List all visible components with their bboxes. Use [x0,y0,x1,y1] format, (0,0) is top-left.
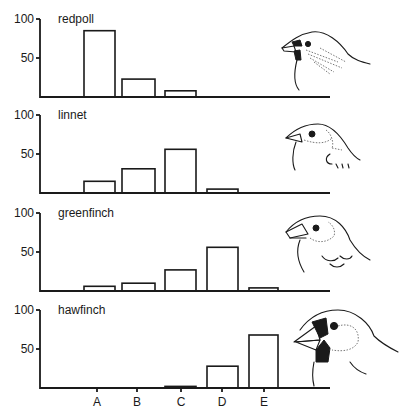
greenfinch-head-icon [286,216,370,272]
panel-title: linnet [58,108,87,122]
bar-hawfinch-E [249,335,278,388]
panel-hawfinch: 10050hawfinch [14,303,330,388]
ytick-label: 50 [21,147,35,161]
redpoll-head-icon [282,32,370,90]
hawfinch-head-icon [294,310,398,386]
ytick-label: 100 [14,206,34,220]
xtick-label-B: B [133,395,141,409]
linnet-head-icon [286,124,360,170]
panel-redpoll: 10050redpoll [14,12,330,97]
ytick-label: 100 [14,12,34,26]
bar-greenfinch-D [207,247,238,291]
ytick-label: 100 [14,108,34,122]
bar-linnet-C [165,149,196,193]
bar-greenfinch-B [122,283,155,291]
panel-title: hawfinch [58,303,105,317]
axis-hawfinch [40,310,330,388]
panel-title: redpoll [58,12,94,26]
bar-redpoll-C [165,91,196,97]
ytick-label: 50 [21,245,35,259]
bar-hawfinch-D [207,366,238,388]
bar-redpoll-A [84,31,115,97]
panel-linnet: 10050linnet [14,108,330,193]
bar-linnet-A [84,181,115,193]
ytick-label: 100 [14,303,34,317]
panel-greenfinch: 10050greenfinch [14,206,330,291]
bar-redpoll-B [122,79,155,97]
ytick-label: 50 [21,51,35,65]
xtick-label-D: D [218,395,227,409]
bar-greenfinch-C [165,270,196,291]
panel-title: greenfinch [58,206,114,220]
bar-linnet-B [122,169,155,193]
xtick-label-C: C [177,395,186,409]
ytick-label: 50 [21,342,35,356]
finch-bar-charts: 10050redpoll10050linnet10050greenfinch10… [0,0,407,415]
xtick-label-E: E [260,395,268,409]
xtick-label-A: A [93,395,101,409]
